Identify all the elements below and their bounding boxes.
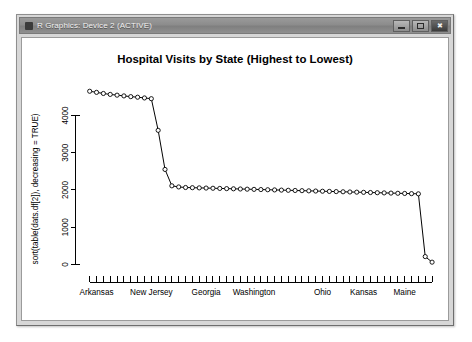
data-point bbox=[362, 190, 366, 194]
data-point bbox=[163, 167, 167, 171]
data-point bbox=[218, 186, 222, 190]
data-point bbox=[430, 260, 434, 264]
data-point bbox=[375, 191, 379, 195]
data-point bbox=[293, 188, 297, 192]
x-tick-label-6: Maine bbox=[394, 288, 417, 297]
x-tick-label-4: Ohio bbox=[314, 288, 332, 297]
maximize-icon bbox=[417, 23, 424, 29]
x-tick-label-0: Arkansas bbox=[80, 288, 114, 297]
r-logo-icon bbox=[24, 21, 34, 31]
window-title: R Graphics: Device 2 (ACTIVE) bbox=[37, 21, 391, 30]
y-axis: 01000200030004000 bbox=[61, 106, 79, 267]
data-point bbox=[204, 186, 208, 190]
minimize-icon bbox=[398, 27, 405, 29]
y-tick-label-0: 0 bbox=[61, 262, 70, 267]
data-point bbox=[266, 188, 270, 192]
data-point bbox=[142, 96, 146, 100]
data-point bbox=[409, 192, 413, 196]
data-point bbox=[307, 189, 311, 193]
y-tick-label-3: 3000 bbox=[61, 143, 70, 162]
data-point bbox=[197, 186, 201, 190]
data-point bbox=[211, 186, 215, 190]
data-point bbox=[136, 95, 140, 99]
data-point bbox=[94, 90, 98, 94]
y-tick-label-4: 4000 bbox=[61, 106, 70, 125]
data-series bbox=[88, 89, 435, 264]
data-point bbox=[348, 190, 352, 194]
data-point bbox=[108, 92, 112, 96]
line-chart: Hospital Visits by State (Highest to Low… bbox=[22, 38, 448, 320]
x-tick-label-3: Washington bbox=[233, 288, 276, 297]
x-tick-label-1: New Jersey bbox=[130, 288, 174, 297]
data-point bbox=[389, 191, 393, 195]
data-point bbox=[129, 95, 133, 99]
close-button[interactable]: ✖ bbox=[431, 20, 448, 32]
data-point bbox=[231, 187, 235, 191]
data-point bbox=[314, 189, 318, 193]
data-point bbox=[320, 189, 324, 193]
data-point bbox=[300, 189, 304, 193]
close-icon: ✖ bbox=[437, 22, 443, 29]
data-point bbox=[245, 187, 249, 191]
data-point bbox=[423, 254, 427, 258]
data-point bbox=[334, 190, 338, 194]
maximize-button[interactable] bbox=[412, 20, 429, 32]
data-point bbox=[122, 94, 126, 98]
data-point bbox=[177, 185, 181, 189]
y-tick-label-2: 2000 bbox=[61, 180, 70, 199]
plot-canvas: Hospital Visits by State (Highest to Low… bbox=[21, 37, 449, 321]
data-point bbox=[416, 192, 420, 196]
y-tick-label-1: 1000 bbox=[61, 218, 70, 237]
data-point bbox=[272, 188, 276, 192]
data-point bbox=[355, 190, 359, 194]
data-point bbox=[225, 187, 229, 191]
x-tick-label-2: Georgia bbox=[192, 288, 221, 297]
data-point bbox=[149, 97, 153, 101]
data-point bbox=[190, 186, 194, 190]
r-graphics-window: R Graphics: Device 2 (ACTIVE) ✖ Hospital… bbox=[16, 14, 454, 326]
data-point bbox=[183, 185, 187, 189]
data-point bbox=[88, 89, 92, 93]
x-tick-label-5: Kansas bbox=[350, 288, 377, 297]
data-point bbox=[101, 91, 105, 95]
data-point bbox=[279, 188, 283, 192]
data-point bbox=[156, 128, 160, 132]
data-point bbox=[396, 191, 400, 195]
window-title-bar[interactable]: R Graphics: Device 2 (ACTIVE) ✖ bbox=[19, 17, 451, 34]
data-point bbox=[238, 187, 242, 191]
chart-title: Hospital Visits by State (Highest to Low… bbox=[117, 53, 353, 65]
y-axis-label: sort(table(dats.df[2]), decreasing = TRU… bbox=[31, 113, 40, 264]
data-point bbox=[252, 187, 256, 191]
data-point bbox=[368, 190, 372, 194]
data-point bbox=[259, 187, 263, 191]
data-point bbox=[382, 191, 386, 195]
data-point bbox=[170, 184, 174, 188]
data-point bbox=[327, 189, 331, 193]
minimize-button[interactable] bbox=[393, 20, 410, 32]
data-point bbox=[403, 191, 407, 195]
x-axis bbox=[90, 276, 432, 282]
data-point bbox=[115, 93, 119, 97]
data-point bbox=[341, 190, 345, 194]
data-point bbox=[286, 188, 290, 192]
x-axis-tick-labels: ArkansasNew JerseyGeorgiaWashingtonOhioK… bbox=[80, 288, 417, 297]
